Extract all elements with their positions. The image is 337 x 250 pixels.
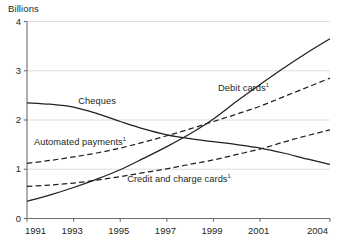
series-label-credit-charge-cards: Credit and charge cards1: [127, 174, 231, 184]
y-tick-label-0: 0: [5, 213, 21, 224]
series-line-cheques: [27, 103, 330, 165]
y-tick-label-4: 4: [5, 16, 21, 27]
y-tick-label-3: 3: [5, 65, 21, 76]
series-label-credit-charge-cards-text: Credit and charge cards: [127, 174, 227, 184]
x-tick-label-2004: 2004: [307, 225, 328, 236]
footnote-marker-credit-charge-cards: 1: [228, 173, 231, 179]
series-label-cheques-text: Cheques: [78, 96, 116, 106]
chart-container: Billions 43210 1991199319951997199920012…: [0, 0, 337, 250]
line-chart-plot: [0, 0, 337, 250]
y-tick-label-1: 1: [5, 163, 21, 174]
x-tick-label-1995: 1995: [108, 225, 129, 236]
y-tick-label-2: 2: [5, 114, 21, 125]
x-tick-label-1997: 1997: [155, 225, 176, 236]
series-label-cheques: Cheques: [78, 96, 116, 106]
x-tick-label-1999: 1999: [201, 225, 222, 236]
series-line-automated-payments: [27, 78, 330, 163]
x-tick-label-2001: 2001: [248, 225, 269, 236]
x-tick-label-1993: 1993: [62, 225, 83, 236]
series-label-debit-cards-text: Debit cards: [218, 83, 266, 93]
series-label-automated-payments-text: Automated payments: [34, 137, 123, 147]
footnote-marker-debit-cards: 1: [266, 81, 269, 87]
series-label-automated-payments: Automated payments1: [34, 137, 126, 147]
footnote-marker-automated-payments: 1: [123, 136, 126, 142]
x-tick-label-1991: 1991: [25, 225, 46, 236]
series-label-debit-cards: Debit cards1: [218, 83, 269, 93]
